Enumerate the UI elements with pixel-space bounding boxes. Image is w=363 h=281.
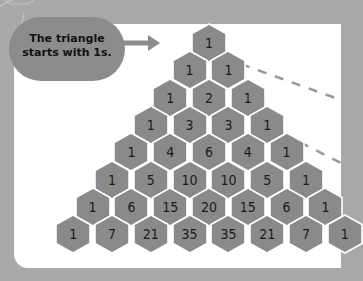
arrow-right-icon xyxy=(0,0,341,281)
